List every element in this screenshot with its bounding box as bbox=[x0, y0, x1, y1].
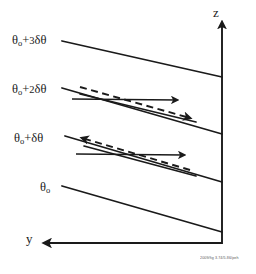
isentrope-line-theta0-plus-3dtheta bbox=[62, 41, 222, 77]
isentrope-lines-group bbox=[62, 41, 222, 232]
figure-credit-line: 2009/fig 3.74/5.86/peh bbox=[200, 255, 239, 260]
upper-perturbation-cluster bbox=[72, 87, 196, 122]
isentrope-label-theta0-plus-3dtheta: θo+3δθ bbox=[12, 34, 46, 47]
lower-solid-tilted-isentrope-segment bbox=[84, 146, 196, 176]
isentrope-label-theta0-plus-dtheta: θo+δθ bbox=[14, 132, 43, 145]
lower-leftward-velocity-arrow bbox=[76, 154, 184, 155]
delta-theta: δθ bbox=[35, 33, 47, 47]
upper-dashed-perturbed-isentrope bbox=[80, 87, 190, 118]
isentrope-label-theta0: θo bbox=[40, 181, 50, 194]
isentrope-diagram-figure: z y θo+3δθ θo+2δθ θo+δθ θo 2009/fig 3.74… bbox=[0, 0, 256, 274]
z-axis-label: z bbox=[213, 6, 219, 19]
delta-theta: δθ bbox=[35, 82, 47, 96]
theta-subscript: o bbox=[18, 38, 22, 48]
isentrope-line-theta0-plus-dtheta bbox=[65, 136, 222, 182]
theta-subscript: o bbox=[20, 136, 24, 146]
theta-subscript: o bbox=[18, 87, 22, 97]
upper-rightward-velocity-arrow bbox=[72, 99, 177, 100]
isentrope-line-theta0 bbox=[62, 186, 222, 232]
y-axis-label: y bbox=[26, 232, 33, 245]
upper-solid-tilted-isentrope-segment bbox=[80, 94, 196, 122]
axis-group bbox=[44, 22, 222, 244]
isentrope-label-theta0-plus-2dtheta: θo+2δθ bbox=[12, 83, 46, 96]
theta-subscript: o bbox=[46, 185, 50, 195]
delta-theta: δθ bbox=[31, 131, 43, 145]
